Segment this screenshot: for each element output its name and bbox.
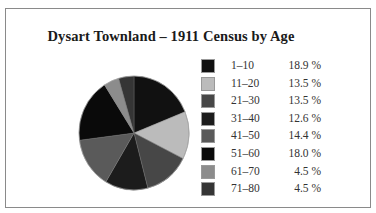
legend-item: 41–5014.4 % <box>201 129 321 143</box>
legend-value: 13.5 % <box>288 94 321 106</box>
legend-label: 51–60 <box>231 147 260 159</box>
chart-frame: Dysart Townland – 1911 Census by Age 1–1… <box>5 8 371 208</box>
legend-value: 4.5 % <box>294 182 321 194</box>
legend-label: 71–80 <box>231 182 260 194</box>
chart-title-text: Dysart Townland – 1911 Census by Age <box>48 28 295 44</box>
legend-value: 14.4 % <box>288 129 321 141</box>
legend-swatch <box>201 165 215 179</box>
legend-item: 71–804.5 % <box>201 182 321 196</box>
legend-swatch <box>201 182 215 196</box>
legend-value: 4.5 % <box>294 165 321 177</box>
legend-swatch <box>201 77 215 91</box>
pie-chart <box>78 75 190 191</box>
legend-item: 11–2013.5 % <box>201 77 321 91</box>
legend-label: 21–30 <box>231 94 260 106</box>
legend-label: 31–40 <box>231 112 260 124</box>
chart-title: Dysart Townland – 1911 Census by Age <box>6 28 370 45</box>
legend-value: 12.6 % <box>288 112 321 124</box>
legend-item: 61–704.5 % <box>201 165 321 179</box>
legend-swatch <box>201 147 215 161</box>
legend-swatch <box>201 112 215 126</box>
legend-swatch <box>201 129 215 143</box>
legend-swatch <box>201 94 215 108</box>
legend-item: 1–1018.9 % <box>201 59 321 73</box>
legend-value: 18.9 % <box>288 59 321 71</box>
legend-swatch <box>201 59 215 73</box>
legend-item: 51–6018.0 % <box>201 147 321 161</box>
legend-label: 61–70 <box>231 165 260 177</box>
legend-item: 21–3013.5 % <box>201 94 321 108</box>
legend-label: 1–10 <box>231 59 254 71</box>
legend-label: 11–20 <box>231 77 259 89</box>
legend-item: 31–4012.6 % <box>201 112 321 126</box>
legend-value: 18.0 % <box>288 147 321 159</box>
legend-value: 13.5 % <box>288 77 321 89</box>
legend-label: 41–50 <box>231 129 260 141</box>
